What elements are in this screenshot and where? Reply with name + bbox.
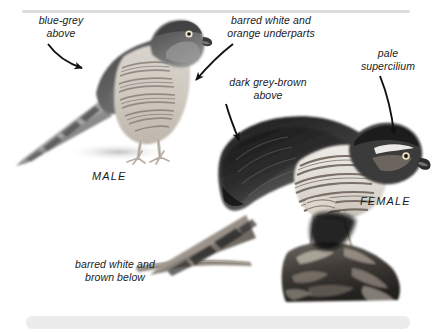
annotation-label-below: barred white and brown below: [50, 258, 180, 284]
female-sparrowhawk: [136, 116, 431, 302]
caption-female: FEMALE: [360, 195, 411, 207]
annotation-label-underparts: barred white and orange underparts: [205, 14, 337, 40]
figure-plate: blue-grey above barred white and orange …: [0, 0, 432, 333]
annotation-label-dark-grey: dark grey-brown above: [216, 76, 320, 102]
caption-male: MALE: [92, 170, 126, 182]
annotation-label-supercilium: pale supercilium: [348, 47, 428, 73]
bottom-bar: [26, 316, 410, 329]
male-sparrowhawk: [16, 20, 212, 166]
annotation-label-blue-grey: blue-grey above: [18, 14, 104, 40]
